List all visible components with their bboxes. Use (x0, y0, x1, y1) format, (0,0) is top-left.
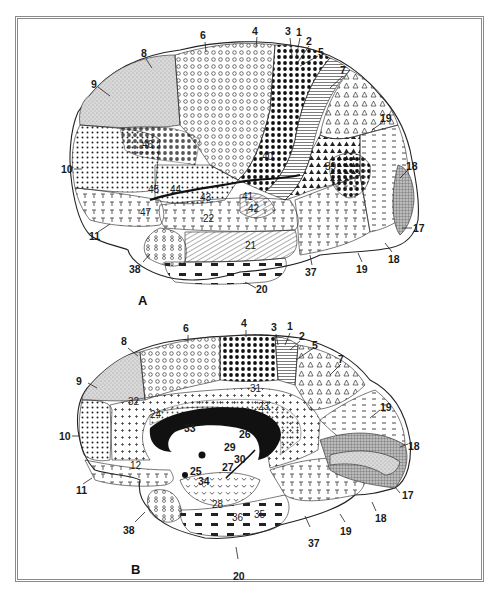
area-label: 2 (306, 35, 312, 47)
area-label: 43 (200, 192, 212, 203)
area-label: 6 (200, 29, 206, 41)
area-label: 7 (340, 64, 346, 76)
area-label: 26 (239, 428, 251, 440)
area-label: 10 (59, 430, 71, 442)
area-label: 17 (413, 222, 425, 234)
area-label: 38 (123, 524, 135, 536)
area-label: 23 (258, 401, 270, 412)
area-label: 42 (248, 203, 260, 214)
area-label: 46 (142, 139, 154, 150)
area-label: 11 (76, 484, 87, 496)
area-label: 7 (338, 353, 344, 365)
area-label: 24 (150, 409, 162, 420)
area-label: 19 (340, 525, 352, 537)
area-label: 18 (406, 160, 418, 172)
area-label: 10 (61, 163, 73, 175)
area-label: 18 (388, 253, 400, 265)
area-label: 27 (222, 461, 234, 473)
area-label: 1 (287, 320, 293, 332)
area-label: 37 (305, 266, 317, 278)
area-label: 32 (128, 396, 140, 407)
area-label: 31 (250, 383, 262, 394)
area-label: 4 (241, 317, 247, 329)
area-label: 18 (408, 440, 420, 452)
brodmann-diagram: 46 45 44 43 40 39 41 42 22 21 47 6 4 3 1… (0, 0, 502, 610)
area-label: 22 (203, 213, 215, 224)
area-label: 47 (140, 207, 152, 218)
area-label: 17 (402, 489, 414, 501)
panel-a-lateral-view: 46 45 44 43 40 39 41 42 22 21 47 6 4 3 1… (61, 25, 425, 308)
area-label: 44 (170, 184, 182, 195)
panel-b-medial-view: 33 26 29 30 25 27 34 32 31 23 24 12 28 3… (59, 317, 420, 582)
area-label: 3 (271, 321, 277, 333)
area-label: 40 (262, 151, 274, 162)
area-label: 19 (356, 263, 368, 275)
area-label: 28 (212, 499, 224, 510)
area-label: 37 (308, 537, 320, 549)
area-label: 29 (224, 441, 236, 453)
area-label: 9 (91, 78, 97, 90)
area-label: 35 (254, 509, 266, 520)
area-label: 6 (183, 322, 189, 334)
area-label: 21 (245, 240, 257, 251)
area-label: 8 (121, 335, 127, 347)
area-label: 20 (233, 570, 245, 582)
panel-label-b: B (131, 562, 140, 577)
area-label: 4 (252, 25, 258, 37)
area-label: 5 (318, 46, 324, 58)
area-label: 34 (198, 475, 210, 487)
area-label: 19 (380, 401, 392, 413)
area-label: 1 (296, 26, 302, 38)
area-label: 41 (242, 191, 254, 202)
area-label: 11 (89, 230, 100, 242)
area-label: 38 (129, 263, 141, 275)
area-label: 36 (232, 512, 244, 523)
area-label: 39 (325, 161, 337, 172)
area-label: 20 (256, 283, 268, 295)
area-label: 18 (375, 512, 387, 524)
area-label: 2 (299, 330, 305, 342)
area-label: 5 (312, 339, 318, 351)
panel-label-a: A (138, 293, 148, 308)
area-label: 45 (148, 184, 160, 195)
area-label: 33 (184, 422, 196, 434)
area-label: 9 (76, 375, 82, 387)
area-label: 12 (130, 460, 142, 471)
area-label: 19 (380, 112, 392, 124)
area-label: 3 (285, 25, 291, 37)
area-label: 8 (141, 47, 147, 59)
area-label: 30 (234, 453, 246, 465)
